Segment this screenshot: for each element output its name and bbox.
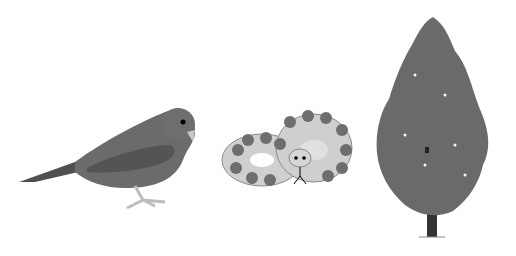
snake-icon	[218, 110, 354, 194]
tree-icon	[375, 15, 491, 245]
tree-illustration	[375, 15, 491, 245]
bird-illustration	[15, 100, 195, 210]
snake-illustration	[218, 110, 354, 194]
bird-icon	[15, 100, 195, 210]
